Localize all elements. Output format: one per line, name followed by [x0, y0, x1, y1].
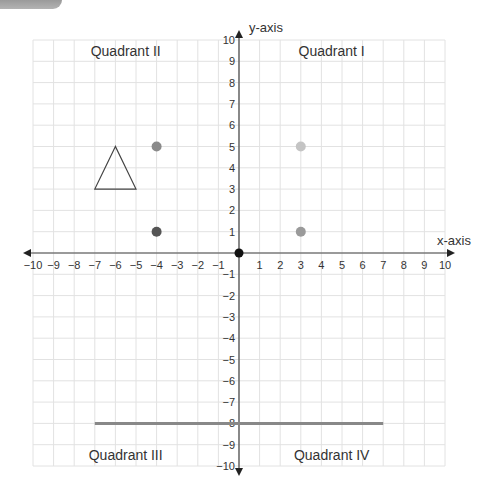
- y-tick-label: 3: [229, 183, 235, 195]
- x-tick-label: 10: [439, 259, 451, 271]
- x-tick-label: 1: [257, 259, 263, 271]
- y-tick-label: −6: [222, 375, 235, 387]
- x-tick-label: 6: [360, 259, 366, 271]
- y-tick-label: 8: [229, 77, 235, 89]
- x-tick-label: −7: [89, 259, 102, 271]
- origin-point: [235, 249, 244, 258]
- x-tick-label: −4: [150, 259, 163, 271]
- y-tick-label: 6: [229, 119, 235, 131]
- y-axis-label: y-axis: [249, 20, 283, 35]
- x-axis-label: x-axis: [437, 233, 471, 248]
- x-tick-label: 2: [277, 259, 283, 271]
- y-tick-label: −7: [222, 396, 235, 408]
- x-tick-label: 3: [298, 259, 304, 271]
- x-tick-label: 5: [339, 259, 345, 271]
- y-tick-label: −9: [222, 439, 235, 451]
- x-tick-label: −5: [130, 259, 143, 271]
- y-tick-label: −2: [222, 290, 235, 302]
- y-tick-label: −1: [222, 268, 235, 280]
- y-tick-label: 1: [229, 226, 235, 238]
- y-tick-label: 9: [229, 55, 235, 67]
- x-tick-label: −10: [24, 259, 43, 271]
- y-tick-label: 7: [229, 98, 235, 110]
- x-axis-left-arrow-icon: [23, 249, 31, 257]
- y-tick-label: −10: [216, 460, 235, 472]
- y-axis-up-arrow-icon: [235, 30, 243, 38]
- y-tick-label: 10: [223, 34, 235, 46]
- quadrant-label: Quadrant IV: [294, 447, 370, 463]
- data-point: [152, 142, 162, 152]
- y-tick-label: −5: [222, 354, 235, 366]
- x-tick-label: 7: [380, 259, 386, 271]
- x-tick-label: −8: [68, 259, 81, 271]
- quadrant-label: Quadrant II: [91, 43, 161, 59]
- quadrant-label: Quadrant I: [299, 43, 365, 59]
- x-axis-right-arrow-icon: [447, 249, 455, 257]
- y-tick-label: −4: [222, 332, 235, 344]
- y-axis-down-arrow-icon: [235, 468, 243, 476]
- y-tick-label: 4: [229, 162, 235, 174]
- data-point: [296, 142, 306, 152]
- x-tick-label: 8: [401, 259, 407, 271]
- coordinate-plane: −10−9−8−7−6−5−4−3−2−11234567891010987654…: [0, 0, 492, 477]
- y-tick-label: 5: [229, 141, 235, 153]
- x-tick-label: −2: [192, 259, 205, 271]
- x-tick-label: −6: [109, 259, 122, 271]
- data-point: [296, 227, 306, 237]
- y-tick-label: −3: [222, 311, 235, 323]
- x-tick-label: −9: [47, 259, 60, 271]
- x-tick-label: −3: [171, 259, 184, 271]
- quadrant-label: Quadrant III: [89, 447, 163, 463]
- x-tick-label: 4: [318, 259, 324, 271]
- data-point: [152, 227, 162, 237]
- x-tick-label: 9: [421, 259, 427, 271]
- y-tick-label: 2: [229, 204, 235, 216]
